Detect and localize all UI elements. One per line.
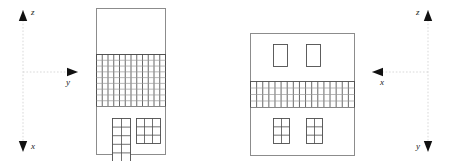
right-axis-arrow-y-down	[424, 141, 432, 152]
left-axis-label-z: z	[31, 8, 35, 17]
right-axis-arrow-z-up	[424, 10, 432, 21]
right-axis-arrow-x-left	[372, 68, 383, 76]
left-axis-arrow-y-right	[67, 68, 78, 76]
left-axis-arrow-x-down	[19, 141, 27, 152]
left-building-elevation-lower-right-window-grid	[137, 119, 161, 144]
diagram-canvas: z x y z y x	[0, 0, 451, 161]
right-building-elevation-upper-right-window	[307, 45, 321, 67]
right-building-elevation-upper-left-window	[274, 45, 288, 67]
right-axis-label-y: y	[416, 142, 420, 151]
right-axis-label-x: x	[380, 78, 384, 87]
left-axis-label-y: y	[66, 78, 70, 87]
left-axis-arrow-z-up	[19, 10, 27, 21]
left-axis-label-x: x	[31, 142, 35, 151]
right-axis-label-z: z	[416, 8, 420, 17]
